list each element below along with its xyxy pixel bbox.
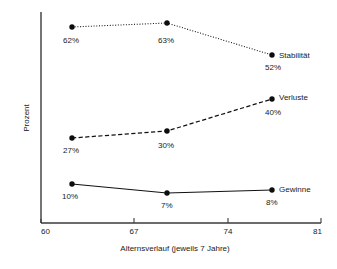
series-gewinne-point-2 — [269, 187, 274, 192]
x-tick-label-2: 74 — [224, 227, 233, 236]
x-tick-label-0: 60 — [41, 227, 50, 236]
chart-container: 60 67 74 81 Alternsverlauf (jeweils 7 Ja… — [0, 0, 337, 269]
series-verluste-label: Verluste — [279, 93, 308, 102]
series-gewinne-value-1: 7% — [161, 201, 173, 210]
series-stabilitaet-label: Stabilität — [279, 51, 310, 60]
series-gewinne-value-2: 8% — [266, 198, 278, 207]
series-gewinne-point-0 — [69, 181, 74, 186]
y-axis-title: Prozent — [22, 103, 31, 131]
series-stabilitaet-point-1 — [164, 20, 169, 25]
series-gewinne-point-1 — [164, 190, 169, 195]
line-chart: 60 67 74 81 Alternsverlauf (jeweils 7 Ja… — [0, 0, 337, 269]
series-stabilitaet-value-2: 52% — [265, 63, 281, 72]
series-gewinne-label: Gewinne — [279, 185, 311, 194]
series-verluste-value-0: 27% — [63, 146, 79, 155]
series-stabilitaet-value-1: 63% — [158, 36, 174, 45]
series-stabilitaet-value-0: 62% — [63, 36, 79, 45]
x-tick-label-3: 81 — [313, 227, 322, 236]
series-gewinne-value-0: 10% — [62, 192, 78, 201]
series-verluste-value-1: 30% — [158, 141, 174, 150]
series-verluste-value-2: 40% — [265, 108, 281, 117]
series-verluste-point-1 — [164, 128, 169, 133]
series-verluste-point-0 — [69, 135, 74, 140]
series-stabilitaet-point-0 — [69, 24, 74, 29]
series-verluste-point-2 — [269, 96, 274, 101]
series-stabilitaet-point-2 — [269, 52, 274, 57]
x-tick-label-1: 67 — [130, 227, 139, 236]
x-axis-title: Alternsverlauf (jeweils 7 Jahre) — [120, 244, 230, 253]
